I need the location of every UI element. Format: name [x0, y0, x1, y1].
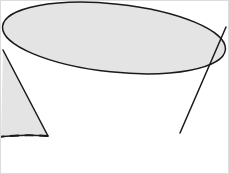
frustum-figure: Frustum of a cone A three dimensional fr… [0, 0, 229, 174]
frustum-svg: Frustum of a cone A three dimensional fr… [0, 0, 229, 174]
